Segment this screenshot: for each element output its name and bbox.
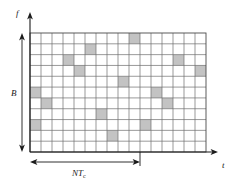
frequency-hopping-diagram: f B t NTc	[0, 0, 240, 185]
hop-cell	[96, 109, 107, 120]
hop-cell	[129, 33, 140, 44]
hop-cell	[30, 87, 41, 98]
hop-cell	[63, 55, 74, 66]
f-axis-label: f	[16, 8, 20, 18]
hop-cell	[195, 65, 206, 76]
hop-cell	[85, 44, 96, 55]
t-axis-label: t	[222, 160, 225, 170]
hop-period-label: NTc	[71, 168, 86, 179]
hop-cell	[151, 87, 162, 98]
hop-cell	[118, 76, 129, 87]
hop-cell	[162, 98, 173, 109]
figure-container: f B t NTc	[0, 0, 240, 185]
grid-lines-layer	[30, 33, 206, 152]
bandwidth-label: B	[11, 88, 17, 98]
hop-cell	[173, 55, 184, 66]
hop-period-label-subscript: c	[83, 173, 86, 179]
hop-cell	[30, 120, 41, 131]
hop-cell	[107, 130, 118, 141]
hop-cell	[140, 120, 151, 131]
hop-cell	[41, 98, 52, 109]
hop-cell	[74, 65, 85, 76]
